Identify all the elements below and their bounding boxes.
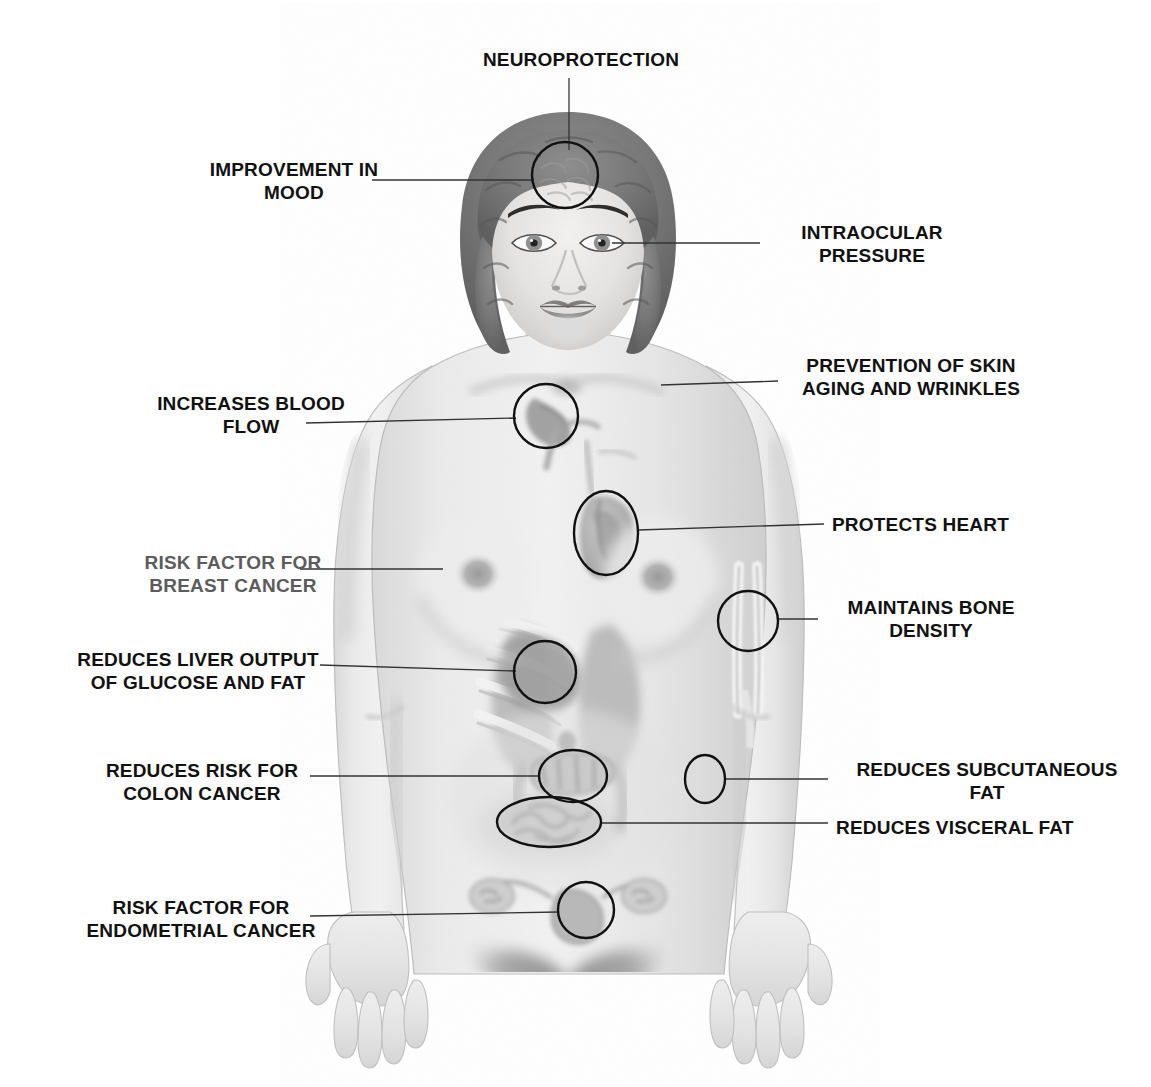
label-reduces-liver-output-of-glucose-and-fat: REDUCES LIVER OUTPUT OF GLUCOSE AND FAT xyxy=(54,648,342,694)
label-increases-blood-flow: INCREASES BLOOD FLOW xyxy=(140,392,362,438)
label-reduces-risk-for-colon-cancer: REDUCES RISK FOR COLON CANCER xyxy=(90,759,314,805)
label-reduces-visceral-fat: REDUCES VISCERAL FAT xyxy=(836,816,1092,839)
label-reduces-subcutaneous-fat: REDUCES SUBCUTANEOUS FAT xyxy=(836,758,1138,804)
label-risk-factor-for-endometrial-cancer: RISK FACTOR FOR ENDOMETRIAL CANCER xyxy=(56,896,346,942)
label-protects-heart: PROTECTS HEART xyxy=(832,513,1032,536)
label-intraocular-pressure: INTRAOCULAR PRESSURE xyxy=(768,221,976,267)
label-prevention-of-skin-aging-and-wrinkles: PREVENTION OF SKIN AGING AND WRINKLES xyxy=(784,354,1038,400)
label-neuroprotection: NEUROPROTECTION xyxy=(476,48,686,71)
label-risk-factor-for-breast-cancer: RISK FACTOR FOR BREAST CANCER xyxy=(120,551,346,597)
anatomical-diagram-canvas: NEUROPROTECTIONIMPROVEMENT IN MOODINTRAO… xyxy=(0,0,1151,1087)
label-improvement-in-mood: IMPROVEMENT IN MOOD xyxy=(186,158,402,204)
label-maintains-bone-density: MAINTAINS BONE DENSITY xyxy=(826,596,1036,642)
